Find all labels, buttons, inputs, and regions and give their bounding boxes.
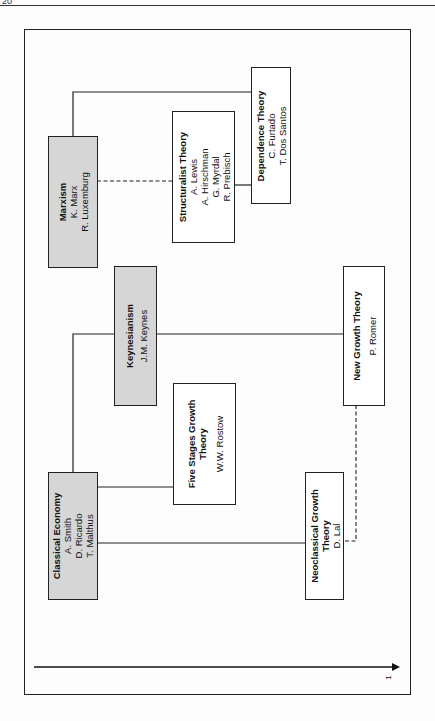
node-title: Keynesianism bbox=[123, 304, 134, 368]
node-title: Marxism bbox=[57, 172, 68, 232]
node-author: C. Furtado bbox=[266, 90, 277, 181]
node-author: R. Luxemburg bbox=[79, 172, 90, 232]
node-author: G. Myrdal bbox=[209, 132, 220, 222]
node-author: T. Dos Santos bbox=[277, 90, 288, 181]
node-five-stages: Five Stages Growth Theory W.W. Rostow bbox=[173, 383, 236, 505]
axis-label: 1 bbox=[384, 675, 393, 679]
node-dependence: Dependence Theory C. Furtado T. Dos Sant… bbox=[251, 67, 291, 204]
node-title: Theory bbox=[196, 400, 207, 489]
node-title: Neoclassical Growth bbox=[308, 489, 319, 582]
node-title: Dependence Theory bbox=[255, 90, 266, 181]
time-axis bbox=[34, 663, 400, 671]
node-author: K. Marx bbox=[68, 172, 79, 232]
node-title: Theory bbox=[319, 489, 330, 582]
node-author: A. Lewis bbox=[187, 132, 198, 222]
node-title: Classical Economy bbox=[51, 493, 62, 580]
node-author: D. Ricardo bbox=[73, 493, 84, 580]
node-title: Five Stages Growth bbox=[185, 400, 196, 489]
node-title: Structuralist Theory bbox=[176, 132, 187, 222]
node-neoclassical: Neoclassical Growth Theory D. Lal bbox=[305, 472, 344, 600]
node-classical: Classical Economy A. Smith D. Ricardo T.… bbox=[48, 472, 98, 600]
node-author: D. Lal bbox=[330, 489, 341, 582]
node-author: W.W. Rostow bbox=[213, 400, 224, 489]
node-author: A. Hirschman bbox=[198, 132, 209, 222]
edge-classical-keynesianism bbox=[73, 334, 114, 472]
node-author: T. Malthus bbox=[84, 493, 95, 580]
edge-newgrowth-neoclassical bbox=[343, 405, 356, 541]
arrow-head-icon bbox=[392, 663, 400, 671]
node-author: R. Prebisch bbox=[220, 132, 231, 222]
node-author: P. Romer bbox=[367, 291, 378, 381]
node-title: New Growth Theory bbox=[351, 291, 362, 381]
node-author: A. Smith bbox=[62, 493, 73, 580]
node-author: J.M. Keynes bbox=[137, 304, 148, 368]
node-keynesianism: Keynesianism J.M. Keynes bbox=[114, 266, 157, 406]
node-structuralist: Structuralist Theory A. Lewis A. Hirschm… bbox=[172, 111, 235, 243]
node-new-growth: New Growth Theory P. Romer bbox=[343, 266, 385, 406]
node-marxism: Marxism K. Marx R. Luxemburg bbox=[48, 136, 98, 268]
